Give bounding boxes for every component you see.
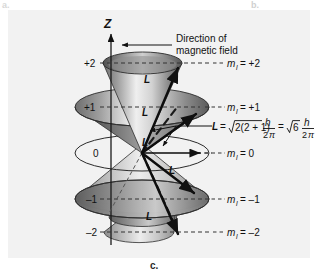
svg-text:L: L xyxy=(212,121,218,132)
angular-momentum-formula: L = 2(2 + 1) h 2 π = 6 h 2 π xyxy=(212,117,315,140)
svg-text:2: 2 xyxy=(263,130,268,140)
svg-text:= +2: = +2 xyxy=(240,58,260,69)
svg-text:m: m xyxy=(227,58,235,69)
z-tick-minus1: –1 xyxy=(86,194,98,205)
svg-text:= –1: = –1 xyxy=(240,194,260,205)
field-direction-line1: Direction of xyxy=(176,33,227,44)
svg-text:l: l xyxy=(236,233,238,240)
z-origin-label: 0 xyxy=(93,148,99,159)
svg-text:π: π xyxy=(308,130,315,140)
svg-text:= –2: = –2 xyxy=(240,227,260,238)
ml-label-minus2: m l = –2 xyxy=(227,227,260,240)
svg-text:l: l xyxy=(236,200,238,207)
svg-text:=: = xyxy=(278,121,284,132)
svg-text:m: m xyxy=(227,102,235,113)
field-direction-line2: magnetic field xyxy=(176,45,238,56)
vector-label-L-0: L xyxy=(142,137,148,148)
space-quantization-figure: a. b. c. xyxy=(0,0,318,279)
svg-text:m: m xyxy=(227,194,235,205)
diagram-canvas: Z +2 +1 0 –1 –2 Direction of magnetic fi… xyxy=(0,0,318,279)
z-tick-plus1: +1 xyxy=(84,102,96,113)
vector-label-L-minus1: L xyxy=(169,165,175,176)
ml-label-0: m l = 0 xyxy=(227,148,255,161)
ml-label-minus1: m l = –1 xyxy=(227,194,260,207)
svg-text:2: 2 xyxy=(302,130,307,140)
svg-text:h: h xyxy=(304,117,310,128)
svg-text:= +1: = +1 xyxy=(240,102,260,113)
svg-text:π: π xyxy=(269,130,276,140)
vector-label-L-minus2: L xyxy=(146,211,152,222)
ml-label-plus1: m l = +1 xyxy=(227,102,260,115)
svg-text:= 0: = 0 xyxy=(240,148,255,159)
z-tick-minus2: –2 xyxy=(86,227,98,238)
svg-text:m: m xyxy=(227,227,235,238)
z-axis-label: Z xyxy=(103,17,112,31)
vector-label-L-plus2: L xyxy=(144,74,150,85)
svg-text:l: l xyxy=(236,154,238,161)
svg-text:l: l xyxy=(236,108,238,115)
z-tick-plus2: +2 xyxy=(84,58,96,69)
svg-text:m: m xyxy=(227,148,235,159)
svg-text:=: = xyxy=(220,121,226,132)
svg-text:6: 6 xyxy=(293,122,299,133)
svg-text:h: h xyxy=(265,117,271,128)
ml-label-plus2: m l = +2 xyxy=(227,58,260,71)
svg-text:l: l xyxy=(236,64,238,71)
vector-label-L-plus1: L xyxy=(142,107,148,118)
